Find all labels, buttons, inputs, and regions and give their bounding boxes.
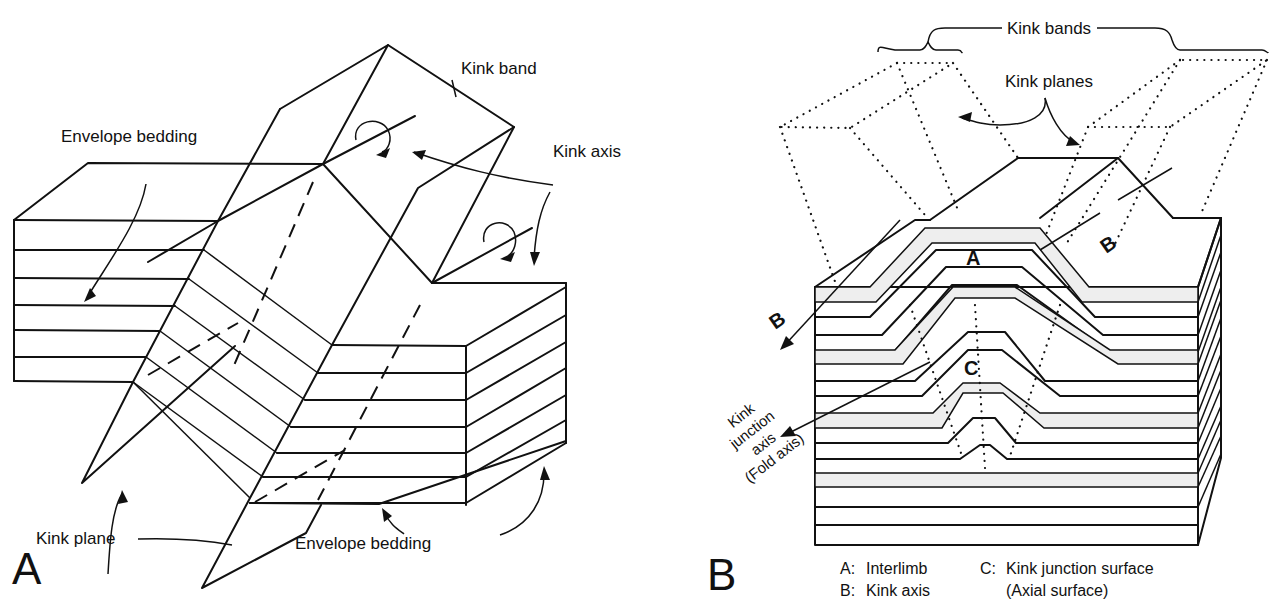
folded-layers [815,228,1198,525]
point-c-label: C [964,358,978,378]
panel-a-letter: A [12,547,41,591]
kink-bands-label: Kink bands [1007,20,1091,37]
kink-band-label: Kink band [461,60,537,77]
kink-plane-label: Kink plane [36,530,115,547]
kink-axis-label: Kink axis [553,143,621,160]
envelope-bedding-label-top: Envelope bedding [61,128,197,145]
kink-band-diagram [0,0,1281,611]
legend-item-b: B:Kink axis [840,580,930,602]
legend-item-c: C:Kink junction surface [980,558,1154,580]
envelope-bedding-label-bottom: Envelope bedding [295,535,431,552]
panel-b-letter: B [707,553,736,597]
legend-item-c-note: (Axial surface) [980,580,1154,602]
left-envelope-block [14,163,323,382]
legend-column-1: A:Interlimb B:Kink axis [840,558,930,602]
kink-band-projections [780,60,1267,290]
point-a-label: A [966,248,980,268]
legend-column-2: C:Kink junction surface (Axial surface) [980,558,1154,602]
panel-b-drawing [780,28,1268,545]
kink-planes-label: Kink planes [1005,73,1093,90]
legend-item-a: A:Interlimb [840,558,930,580]
